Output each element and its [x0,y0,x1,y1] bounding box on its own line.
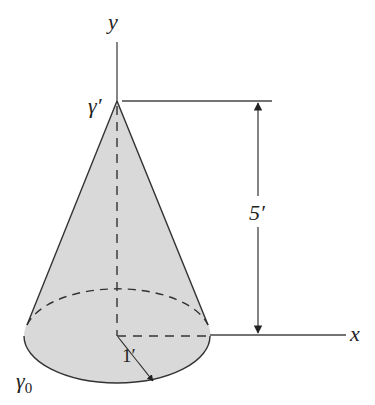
apex-label: γ′ [88,93,103,118]
height-label: 5′ [249,200,266,225]
cone-diagram: y x γ′ 5′ 1′ γ0 [0,0,375,405]
base-curve-label: γ0 [16,368,32,396]
y-axis-label: y [106,9,118,34]
base-curve-subscript: 0 [25,380,33,396]
radius-label: 1′ [122,345,136,366]
x-axis-label: x [349,321,360,346]
